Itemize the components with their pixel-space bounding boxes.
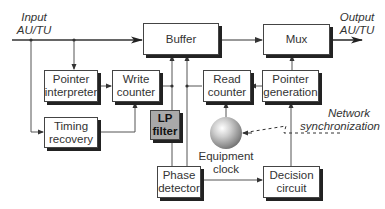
phase-detector-block: Phase detector xyxy=(157,166,201,198)
equipment-clock-line1: Equipment xyxy=(196,150,256,163)
pointer-interpreter-line1: Pointer xyxy=(53,73,89,86)
equipment-clock-label: Equipment clock xyxy=(196,150,256,176)
phase-detector-line2: detector xyxy=(158,182,200,195)
mux-block: Mux xyxy=(263,24,330,55)
decision-circuit-line2: circuit xyxy=(276,182,306,195)
write-counter-block: Write counter xyxy=(112,70,160,102)
lp-filter-line2: filter xyxy=(153,125,178,138)
pointer-generation-line2: generation xyxy=(263,86,317,99)
output-label-line2: AU/TU xyxy=(334,24,380,37)
pointer-interpreter-line2: interpreter xyxy=(45,86,97,99)
read-counter-block: Read counter xyxy=(203,70,251,102)
timing-recovery-line1: Timing xyxy=(54,120,88,133)
read-counter-line2: counter xyxy=(208,86,246,99)
input-label: Input AU/TU xyxy=(14,11,54,37)
input-label-line2: AU/TU xyxy=(14,24,54,37)
equipment-clock-line2: clock xyxy=(196,163,256,176)
buffer-label: Buffer xyxy=(166,33,196,46)
pointer-generation-line1: Pointer xyxy=(272,73,308,86)
output-label: Output AU/TU xyxy=(334,11,380,37)
timing-recovery-line2: recovery xyxy=(49,133,93,146)
write-counter-line2: counter xyxy=(117,86,155,99)
pointer-generation-block: Pointer generation xyxy=(262,70,319,102)
lp-filter-block: LP filter xyxy=(150,110,180,140)
mux-label: Mux xyxy=(286,33,308,46)
write-counter-line1: Write xyxy=(123,73,150,86)
decision-circuit-line1: Decision xyxy=(269,169,313,182)
buffer-block: Buffer xyxy=(143,23,219,55)
lp-filter-line1: LP xyxy=(158,112,173,125)
output-label-line1: Output xyxy=(334,11,380,24)
equipment-clock-sphere-icon xyxy=(210,117,242,149)
phase-detector-line1: Phase xyxy=(163,169,196,182)
pointer-interpreter-block: Pointer interpreter xyxy=(44,70,98,102)
network-sync-line2: synchronization xyxy=(296,120,384,133)
timing-recovery-block: Timing recovery xyxy=(44,117,98,148)
decision-circuit-block: Decision circuit xyxy=(263,166,320,198)
network-sync-label: Network synchronization xyxy=(296,107,384,133)
input-label-line1: Input xyxy=(14,11,54,24)
read-counter-line1: Read xyxy=(213,73,241,86)
network-sync-line1: Network xyxy=(296,107,384,120)
